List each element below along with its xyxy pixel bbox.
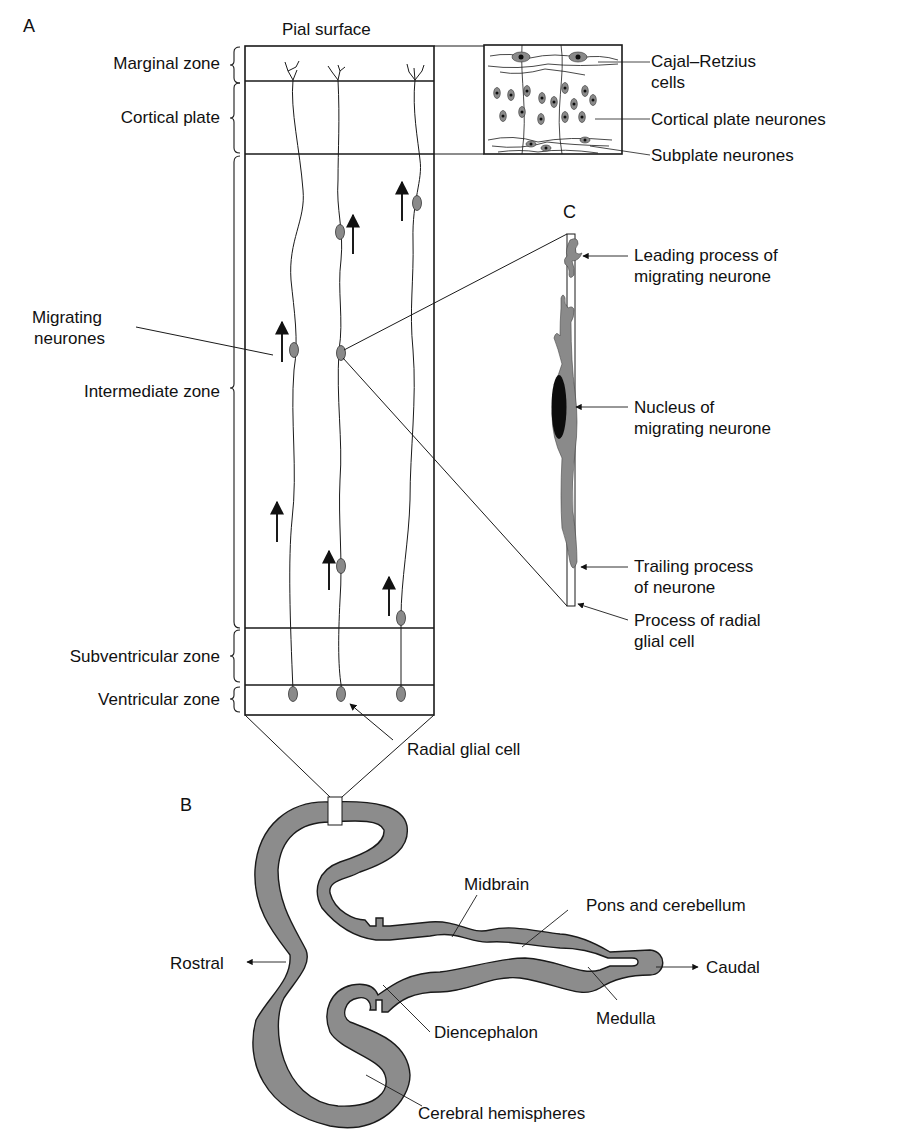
trailing-process-label: Trailing process of neurone	[634, 556, 753, 598]
panel-label-c: C	[563, 202, 576, 223]
cerebral-hemispheres-label: Cerebral hemispheres	[418, 1103, 585, 1124]
rostral-label: Rostral	[170, 953, 224, 974]
radial-glial-cell-label: Radial glial cell	[407, 739, 520, 760]
migration-arrows	[277, 182, 402, 616]
zone-label-intermediate: Intermediate zone	[84, 381, 220, 402]
midbrain-label: Midbrain	[464, 874, 529, 895]
radial-glial-process-label: Process of radial glial cell	[634, 610, 761, 652]
diencephalon-label: Diencephalon	[434, 1022, 538, 1043]
nucleus-label: Nucleus of migrating neurone	[634, 397, 771, 439]
leading-process-label: Leading process of migrating neurone	[634, 245, 778, 287]
subplate-neurones-label: Subplate neurones	[651, 145, 794, 166]
inset-cortical-layers	[484, 45, 650, 155]
medulla-label: Medulla	[596, 1008, 656, 1029]
cortical-plate-neurones-label: Cortical plate neurones	[651, 109, 826, 130]
migrating-neurones-label: Migrating neurones	[32, 307, 105, 349]
zone-label-subventricular: Subventricular zone	[70, 646, 220, 667]
diagram-canvas	[0, 0, 906, 1144]
caudal-label: Caudal	[706, 957, 760, 978]
cajal-retzius-label: Cajal–Retzius cells	[651, 51, 756, 93]
panel-label-a: A	[23, 16, 35, 37]
migrating-neurones	[290, 196, 422, 626]
zone-braces	[230, 47, 240, 712]
zone-label-ventricular: Ventricular zone	[98, 689, 220, 710]
zone-label-cortical-plate: Cortical plate	[121, 107, 220, 128]
zone-label-marginal: Marginal zone	[113, 53, 220, 74]
radial-glial-fibres	[285, 61, 424, 690]
panel-label-b: B	[180, 795, 192, 816]
embryonic-brain	[247, 797, 698, 1128]
pons-cerebellum-label: Pons and cerebellum	[586, 895, 746, 916]
pial-surface-label: Pial surface	[282, 19, 371, 40]
migrating-neurone-detail	[552, 234, 629, 620]
radial-glial-cells	[289, 687, 406, 702]
